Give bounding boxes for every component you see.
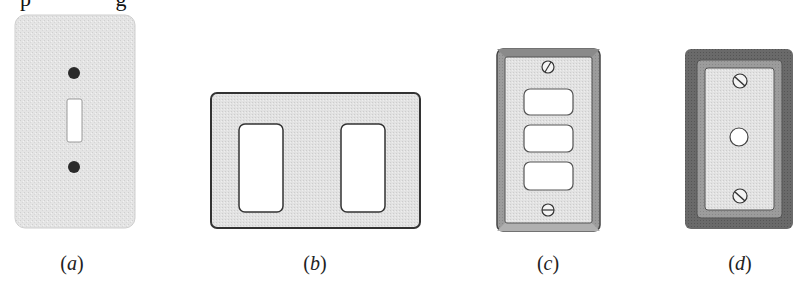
plate-c bbox=[497, 49, 600, 231]
screw-icon bbox=[68, 67, 80, 79]
panel-label-d: (d) bbox=[728, 252, 751, 275]
plate-d bbox=[685, 49, 793, 229]
wall-plates-figure bbox=[0, 0, 808, 292]
screw-icon bbox=[733, 74, 747, 88]
panel-label-b: (b) bbox=[303, 252, 326, 275]
screw-icon bbox=[68, 161, 80, 173]
screw-icon bbox=[733, 189, 747, 203]
toggle-slot bbox=[67, 99, 82, 142]
panel-label-c: (c) bbox=[537, 252, 559, 275]
plate-b bbox=[211, 93, 420, 228]
plate-a bbox=[15, 15, 135, 228]
screw-icon bbox=[542, 204, 554, 216]
panel-label-a: (a) bbox=[60, 252, 83, 275]
screw-icon bbox=[542, 61, 554, 73]
center-hole bbox=[730, 128, 748, 146]
